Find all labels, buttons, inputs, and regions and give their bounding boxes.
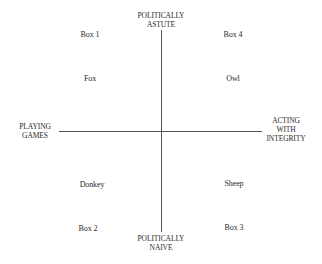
axis-label-top: POLITICALLY ASTUTE (131, 11, 191, 29)
box-label-1: Box 1 (70, 30, 110, 39)
axis-label-left: PLAYING GAMES (10, 122, 60, 140)
animal-label-donkey: Donkey (67, 180, 117, 189)
animal-label-fox: Fox (70, 74, 110, 83)
animal-label-owl: Owl (213, 74, 253, 83)
axis-label-bottom-line2: NAIVE (131, 243, 191, 252)
animal-label-sheep: Sheep (214, 179, 254, 188)
box-label-3: Box 3 (214, 223, 254, 232)
axis-label-bottom: POLITICALLY NAIVE (131, 234, 191, 252)
horizontal-axis (59, 131, 262, 132)
axis-label-top-line1: POLITICALLY (131, 11, 191, 20)
axis-label-right-line2: WITH (258, 125, 314, 134)
axis-label-bottom-line1: POLITICALLY (131, 234, 191, 243)
box-label-2: Box 2 (68, 224, 108, 233)
box-label-4: Box 4 (213, 30, 253, 39)
axis-label-left-line2: GAMES (10, 131, 60, 140)
axis-label-right-line1: ACTING (258, 116, 314, 125)
axis-label-top-line2: ASTUTE (131, 20, 191, 29)
axis-label-left-line1: PLAYING (10, 122, 60, 131)
axis-label-right: ACTING WITH INTEGRITY (258, 116, 314, 143)
axis-label-right-line3: INTEGRITY (258, 134, 314, 143)
